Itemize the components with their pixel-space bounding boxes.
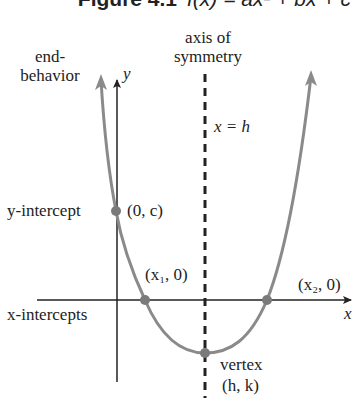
end-behavior-line2: behavior: [10, 66, 90, 85]
y-intercept-dot: [111, 206, 121, 216]
x1-intercept-dot: [140, 295, 150, 305]
x2-intercept-dot: [262, 295, 272, 305]
y-axis-label: y: [123, 64, 131, 83]
end-behavior-line1: end-: [10, 47, 90, 66]
axis-of-symmetry-line1: axis of: [168, 28, 248, 47]
x-axis-label: x: [344, 304, 352, 323]
x1-point-label: (x₁, 0): [145, 265, 188, 284]
axis-of-symmetry-label: axis of symmetry: [168, 28, 248, 66]
y-intercept-label: y-intercept: [7, 201, 81, 220]
vertex-dot: [200, 348, 210, 358]
vertex-label: vertex: [220, 355, 262, 374]
x2-point-label: (x₂, 0): [298, 275, 341, 294]
axis-of-symmetry-line2: symmetry: [168, 47, 248, 66]
vertex-point-label: (h, k): [222, 376, 259, 395]
symmetry-equation-label: x = h: [214, 117, 250, 136]
y-intercept-point-label: (0, c): [127, 201, 163, 220]
x-intercepts-label: x-intercepts: [7, 305, 87, 324]
end-behavior-label: end- behavior: [10, 47, 90, 85]
